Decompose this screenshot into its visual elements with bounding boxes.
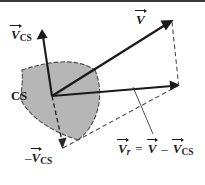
label-control-surface: CS <box>11 90 28 103</box>
label-negative-velocity-cs-symbol: V <box>32 150 41 165</box>
label-absolute-velocity-symbol: V <box>136 12 145 27</box>
label-negative-velocity-cs: –VCS <box>25 150 52 166</box>
equation-leader-line <box>133 87 153 134</box>
label-velocity-cs-subscript: CS <box>20 33 32 43</box>
vector-diagram-figure: VCS V CS –VCS Vr=V–VCS <box>0 0 205 185</box>
label-velocity-cs: VCS <box>11 27 32 43</box>
absolute-velocity-arrowhead <box>161 20 174 31</box>
equation-lhs-subscript: r <box>127 147 131 157</box>
relative-velocity-equation: Vr=V–VCS <box>118 141 193 157</box>
velocity-cs-arrowhead <box>37 29 48 40</box>
dashed-vertical-closure <box>172 22 179 84</box>
label-absolute-velocity: V <box>136 12 145 26</box>
label-velocity-cs-symbol: V <box>11 27 20 42</box>
absolute-velocity-vector <box>52 25 166 97</box>
label-negative-velocity-cs-subscript: CS <box>40 156 52 166</box>
equation-rhs-first-symbol: V <box>148 141 157 156</box>
top-rule <box>0 0 205 2</box>
equation-equals-sign: = <box>135 141 142 156</box>
equation-rhs-second-subscript: CS <box>182 147 194 157</box>
equation-rhs-second-symbol: V <box>173 141 182 156</box>
equation-lhs-symbol: V <box>118 141 127 156</box>
equation-minus-sign: – <box>161 141 168 156</box>
